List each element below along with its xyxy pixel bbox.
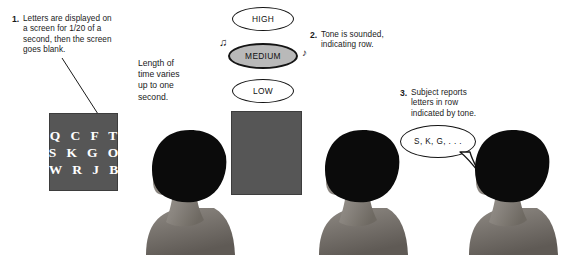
subject-head-3 (463, 128, 559, 255)
music-note-left-icon: ♫ (219, 37, 227, 48)
step-3-number: 3. (400, 88, 407, 98)
step-1-number: 1. (12, 14, 19, 24)
tone-option-medium-label: MEDIUM (245, 51, 281, 61)
music-note-right-icon: ♪ (302, 47, 307, 58)
subject-head-1 (140, 128, 236, 255)
tone-option-low[interactable]: LOW (232, 79, 294, 103)
letter-row-3: W R J B (45, 161, 121, 178)
step-2-number: 2. (310, 30, 317, 40)
subject-head-2 (313, 128, 409, 255)
step-1-caption: 1. Letters are displayed on a screen for… (12, 14, 147, 56)
blank-screen (231, 111, 302, 195)
step-2-text: Tone is sounded, indicating row. (321, 30, 430, 51)
tone-option-low-label: LOW (253, 86, 273, 96)
tone-option-medium[interactable]: MEDIUM (228, 43, 298, 69)
letter-display-screen: Q C F T S K G O W R J B (49, 113, 118, 191)
step-3-text: Subject reports letters in row indicated… (411, 88, 520, 119)
leader-line-step-1 (60, 56, 110, 118)
tone-option-high-label: HIGH (252, 14, 274, 24)
tone-option-high[interactable]: HIGH (232, 7, 294, 31)
step-3-caption: 3. Subject reports letters in row indica… (400, 88, 520, 119)
step-1-text: Letters are displayed on a screen for 1/… (23, 14, 147, 56)
letter-row-2: S K G O (45, 144, 121, 161)
step-2-caption: 2. Tone is sounded, indicating row. (310, 30, 430, 51)
letter-row-1: Q C F T (46, 127, 120, 144)
timing-note: Length of time varies up to one second. (138, 58, 208, 103)
figure-canvas: 1. Letters are displayed on a screen for… (0, 0, 570, 255)
speech-bubble-text: S, K, G, . . . (414, 137, 462, 146)
